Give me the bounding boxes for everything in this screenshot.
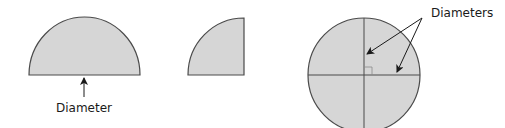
semicircle-figure: Diameter: [29, 17, 140, 115]
circle-figure: Diameters: [308, 6, 493, 128]
quarter-circle-shape: [188, 18, 244, 75]
diameters-label: Diameters: [431, 6, 493, 20]
diameter-label: Diameter: [56, 101, 112, 115]
shapes-diagram: Diameter Diameters: [0, 0, 505, 128]
semicircle-shape: [29, 17, 140, 75]
quarter-circle-figure: [188, 18, 244, 75]
